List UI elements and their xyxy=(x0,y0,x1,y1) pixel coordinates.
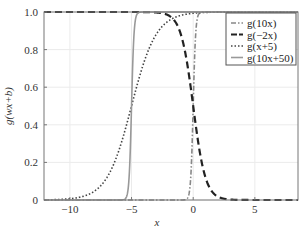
x-axis-label: x xyxy=(154,216,160,228)
y-tick-label: 0 xyxy=(33,194,39,206)
x-tick-label: 0 xyxy=(190,203,196,215)
x-tick-label: 5 xyxy=(252,203,258,215)
y-tick-label: 0.4 xyxy=(24,119,38,131)
y-tick-label: 0.6 xyxy=(24,81,38,93)
x-tick-label: −5 xyxy=(126,203,138,215)
legend: g(10x)g(−2x)g(x+5)g(10x+50) xyxy=(226,13,296,65)
y-tick-label: 0.2 xyxy=(24,156,38,168)
legend-label: g(10x+50) xyxy=(247,52,294,65)
sigmoid-chart: −10−505 00.20.40.60.81.0 x g(wx+b) g(10x… xyxy=(0,0,302,231)
y-axis-label: g(wx+b) xyxy=(2,87,15,125)
y-tick-label: 0.8 xyxy=(24,44,38,56)
x-tick-label: −10 xyxy=(61,203,79,215)
y-tick-label: 1.0 xyxy=(24,6,38,18)
